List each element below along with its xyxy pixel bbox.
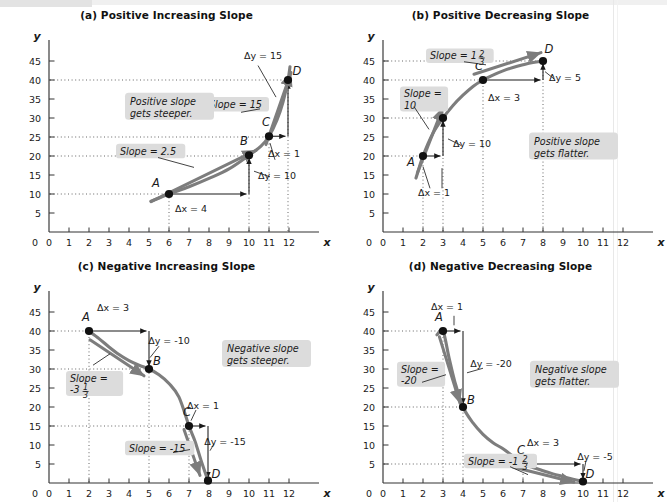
svg-text:B: B (240, 134, 248, 148)
svg-text:45: 45 (363, 307, 375, 318)
svg-text:Slope = 1: Slope = 1 (430, 50, 477, 61)
svg-text:0: 0 (366, 488, 372, 499)
callout: Positive slopegets steeper. (125, 93, 214, 120)
svg-text:5: 5 (369, 459, 375, 470)
svg-text:10: 10 (363, 440, 375, 451)
svg-text:Δy = 10: Δy = 10 (258, 170, 296, 181)
data-point-C (479, 76, 487, 84)
svg-text:15: 15 (363, 421, 375, 432)
data-point-A (439, 327, 447, 335)
svg-text:B: B (153, 354, 161, 368)
svg-text:7: 7 (520, 488, 526, 499)
svg-text:gets steeper.: gets steeper. (227, 355, 289, 366)
panel-negative-decreasing-slope: (d) Negative Decreasing Slope01234567891… (334, 251, 667, 502)
svg-text:35: 35 (363, 94, 375, 105)
svg-text:7: 7 (520, 237, 526, 248)
data-point-B (245, 151, 253, 159)
svg-text:gets flatter.: gets flatter. (535, 376, 590, 387)
svg-text:0: 0 (380, 488, 386, 499)
svg-text:30: 30 (29, 364, 41, 375)
svg-text:35: 35 (29, 345, 41, 356)
svg-text:2: 2 (420, 488, 426, 499)
svg-text:11: 11 (597, 237, 609, 248)
svg-text:gets flatter.: gets flatter. (534, 148, 589, 159)
svg-text:D: D (212, 467, 221, 481)
svg-text:0: 0 (32, 237, 38, 248)
svg-text:Δy = 5: Δy = 5 (549, 72, 581, 83)
chart-svg: 0123456789101112510152025303540450xyABCD… (334, 251, 667, 502)
svg-text:gets steeper.: gets steeper. (130, 108, 192, 119)
svg-text:y: y (33, 281, 41, 294)
svg-text:y: y (367, 30, 375, 43)
svg-text:25: 25 (29, 132, 41, 143)
svg-text:8: 8 (206, 488, 212, 499)
svg-text:Positive slope: Positive slope (130, 96, 196, 107)
svg-text:35: 35 (29, 94, 41, 105)
data-point-D (539, 57, 547, 65)
slope-labels: Slope =-313Slope = -15 (66, 371, 194, 455)
svg-text:10: 10 (363, 189, 375, 200)
svg-text:0: 0 (46, 237, 52, 248)
svg-text:25: 25 (363, 383, 375, 394)
svg-text:10: 10 (577, 488, 589, 499)
axes: 0123456789101112510152025303540450xy (29, 30, 332, 249)
svg-text:0: 0 (380, 237, 386, 248)
chart-svg: 0123456789101112510152025303540450xyABCD… (0, 0, 333, 251)
svg-text:A: A (81, 310, 90, 324)
svg-text:Δx = 3: Δx = 3 (488, 92, 520, 103)
panel-positive-increasing-slope: (a) Positive Increasing Slope01234567891… (0, 0, 333, 251)
data-point-C (185, 422, 193, 430)
delta-labels: Δx = 4Δy = 10Δx = 1Δy = 15 (175, 50, 300, 214)
svg-text:x: x (322, 236, 331, 249)
svg-text:40: 40 (363, 75, 375, 86)
svg-text:9: 9 (226, 488, 232, 499)
svg-text:7: 7 (186, 237, 192, 248)
svg-text:5: 5 (35, 208, 41, 219)
svg-text:40: 40 (29, 326, 41, 337)
svg-text:3: 3 (523, 463, 528, 472)
svg-text:D: D (586, 467, 595, 481)
svg-text:12: 12 (617, 237, 629, 248)
svg-text:9: 9 (560, 237, 566, 248)
svg-text:12: 12 (617, 488, 629, 499)
svg-text:15: 15 (29, 170, 41, 181)
svg-text:D: D (545, 42, 554, 56)
svg-text:0: 0 (32, 488, 38, 499)
svg-text:Negative slope: Negative slope (227, 343, 299, 354)
svg-text:Δy = -10: Δy = -10 (148, 335, 190, 346)
panel-negative-increasing-slope: (c) Negative Increasing Slope01234567891… (0, 251, 333, 502)
chart-svg: 0123456789101112510152025303540450xyABCD… (334, 0, 667, 251)
data-point-B (459, 403, 467, 411)
svg-text:Slope = 2.5: Slope = 2.5 (120, 146, 176, 157)
svg-text:Negative slope: Negative slope (535, 364, 607, 375)
svg-text:0: 0 (366, 237, 372, 248)
data-point-A (85, 327, 93, 335)
svg-text:6: 6 (500, 237, 506, 248)
svg-text:3: 3 (440, 237, 446, 248)
svg-text:5: 5 (146, 488, 152, 499)
svg-text:-3: -3 (70, 384, 80, 395)
svg-text:5: 5 (35, 459, 41, 470)
svg-text:Δy = -5: Δy = -5 (577, 451, 613, 462)
svg-text:30: 30 (29, 113, 41, 124)
svg-text:3: 3 (440, 488, 446, 499)
svg-text:B: B (467, 393, 475, 407)
svg-text:D: D (293, 64, 302, 78)
svg-text:Δx = 1: Δx = 1 (187, 400, 219, 411)
data-point-A (419, 152, 427, 160)
svg-text:Δx = 1: Δx = 1 (431, 301, 463, 312)
svg-text:11: 11 (263, 488, 275, 499)
svg-text:Slope = 15: Slope = 15 (209, 99, 262, 110)
svg-text:A: A (151, 176, 160, 190)
svg-text:30: 30 (363, 364, 375, 375)
svg-text:5: 5 (369, 208, 375, 219)
svg-text:9: 9 (226, 237, 232, 248)
svg-text:11: 11 (263, 237, 275, 248)
svg-text:15: 15 (363, 170, 375, 181)
svg-text:1: 1 (400, 237, 406, 248)
svg-text:10: 10 (29, 440, 41, 451)
callout: Negative slopegets flatter. (530, 361, 619, 388)
svg-text:A: A (406, 155, 415, 169)
svg-text:4: 4 (460, 237, 466, 248)
svg-text:y: y (367, 281, 375, 294)
